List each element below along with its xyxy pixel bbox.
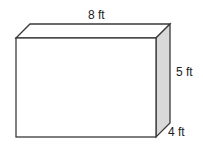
front-face [16,38,156,137]
top-face [16,24,170,38]
depth-label: 4 ft [168,126,185,138]
length-label: 8 ft [88,9,105,21]
height-label: 5 ft [176,66,193,78]
side-face [156,24,170,137]
